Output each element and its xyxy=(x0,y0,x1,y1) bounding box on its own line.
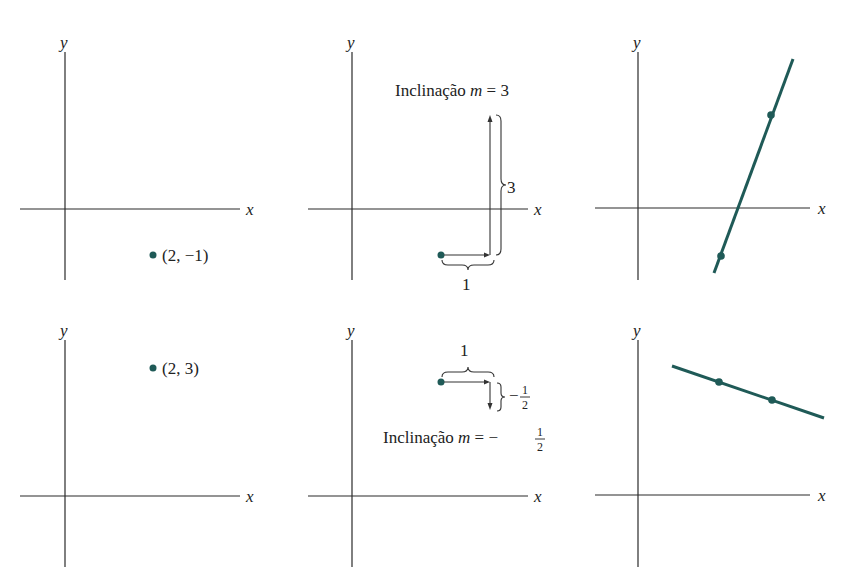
slope-denominator: 2 xyxy=(537,440,543,454)
point xyxy=(715,378,723,386)
y-axis-label: y xyxy=(631,33,641,52)
point xyxy=(717,252,725,260)
panel-bottom-middle: y x 1 − 1 2 Inclinação m = − 1 2 xyxy=(308,321,545,567)
arrow-head-down xyxy=(488,403,493,410)
arrow-head-right xyxy=(484,253,490,258)
x-axis-label: x xyxy=(817,486,826,505)
point xyxy=(150,252,157,259)
panel-top-middle: y x Inclinação m = 3 3 1 xyxy=(308,33,542,294)
point xyxy=(768,396,776,404)
slope-numerator: 1 xyxy=(537,425,543,439)
point-label: (2, −1) xyxy=(162,246,208,265)
x-axis-label: x xyxy=(533,200,542,219)
slope-title: Inclinação m = 3 xyxy=(395,81,509,100)
panel-top-left: y x (2, −1) xyxy=(20,33,254,280)
panel-top-right: y x xyxy=(595,33,826,280)
fall-denominator: 2 xyxy=(522,398,528,412)
point xyxy=(767,111,775,119)
run-brace xyxy=(442,367,494,377)
panel-bottom-left: y x (2, 3) xyxy=(20,321,254,567)
x-axis-label: x xyxy=(245,487,254,506)
point xyxy=(150,365,157,372)
slope-title: Inclinação m = − xyxy=(383,428,498,447)
y-axis-label: y xyxy=(345,321,355,340)
x-axis-label: x xyxy=(245,200,254,219)
arrow-head-right xyxy=(484,380,490,385)
rise-brace xyxy=(496,115,506,255)
y-axis-label: y xyxy=(345,33,355,52)
run-label: 1 xyxy=(462,275,471,294)
y-axis-label: y xyxy=(58,321,68,340)
fall-numerator: 1 xyxy=(522,383,528,397)
slope-diagram: y x (2, −1) y x Inclinação m = 3 3 1 y x xyxy=(0,0,841,578)
panel-bottom-right: y x xyxy=(595,321,826,567)
fall-brace xyxy=(497,383,505,411)
run-brace xyxy=(442,260,494,270)
point-label: (2, 3) xyxy=(162,359,199,378)
x-axis-label: x xyxy=(533,487,542,506)
x-axis-label: x xyxy=(817,199,826,218)
start-point xyxy=(438,252,445,259)
line-slope-3 xyxy=(714,59,793,273)
arrow-head-up xyxy=(488,115,493,122)
run-label: 1 xyxy=(460,341,469,360)
rise-label: 3 xyxy=(507,178,516,197)
fall-sign: − xyxy=(509,386,519,405)
y-axis-label: y xyxy=(58,33,68,52)
line-slope-neg-half xyxy=(672,366,824,418)
y-axis-label: y xyxy=(631,321,641,340)
start-point xyxy=(438,379,445,386)
